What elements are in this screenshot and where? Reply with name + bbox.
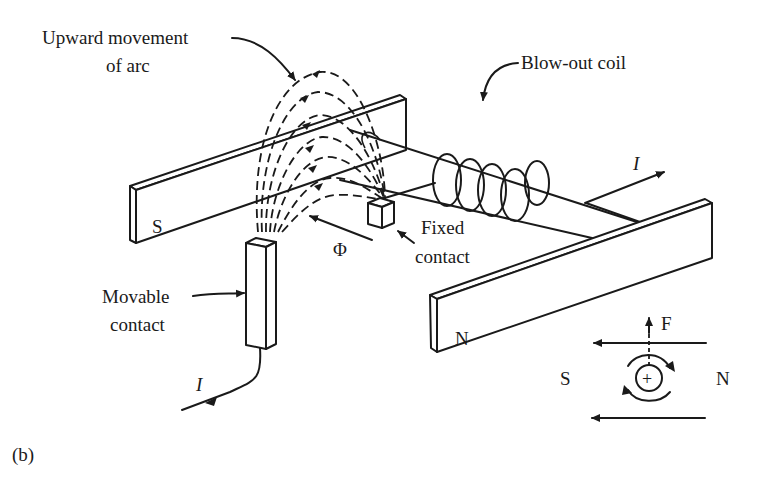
fixed-contact-label-line1: Fixed [421,217,465,238]
input-wire [182,348,260,410]
arc-blowout-diagram: S N I [0,0,770,478]
fixed-contact-label-line2: contact [415,246,471,267]
movable-contact [246,238,276,349]
flux-label: Φ [333,239,347,260]
blowout-coil-pointer [483,63,518,100]
fixed-contact [368,198,394,228]
inset-s-label: S [560,368,571,389]
fixed-contact-pointer [398,231,414,243]
panel-label: (b) [12,444,34,466]
n-pole-label: N [455,328,469,349]
s-pole-magnet-bar: S [130,95,406,243]
movable-contact-pointer [193,293,244,296]
inset-n-label: N [716,368,730,389]
force-label: F [661,313,672,334]
blowout-coil-label: Blow-out coil [521,52,626,73]
force-inset: F + S N [560,313,730,418]
current-in-label: I [195,374,204,395]
current-out-arrow [585,172,664,203]
current-out-label: I [632,153,641,174]
arc-movement-pointer [232,38,295,80]
arc-movement-label-line1: Upward movement [42,27,189,48]
movable-contact-label-line1: Movable [102,286,170,307]
s-pole-label: S [152,216,163,237]
flux-arrow [310,216,372,240]
arc-movement-label-line2: of arc [106,55,150,76]
conductor-symbol: + [642,369,652,389]
movable-contact-label-line2: contact [110,314,166,335]
